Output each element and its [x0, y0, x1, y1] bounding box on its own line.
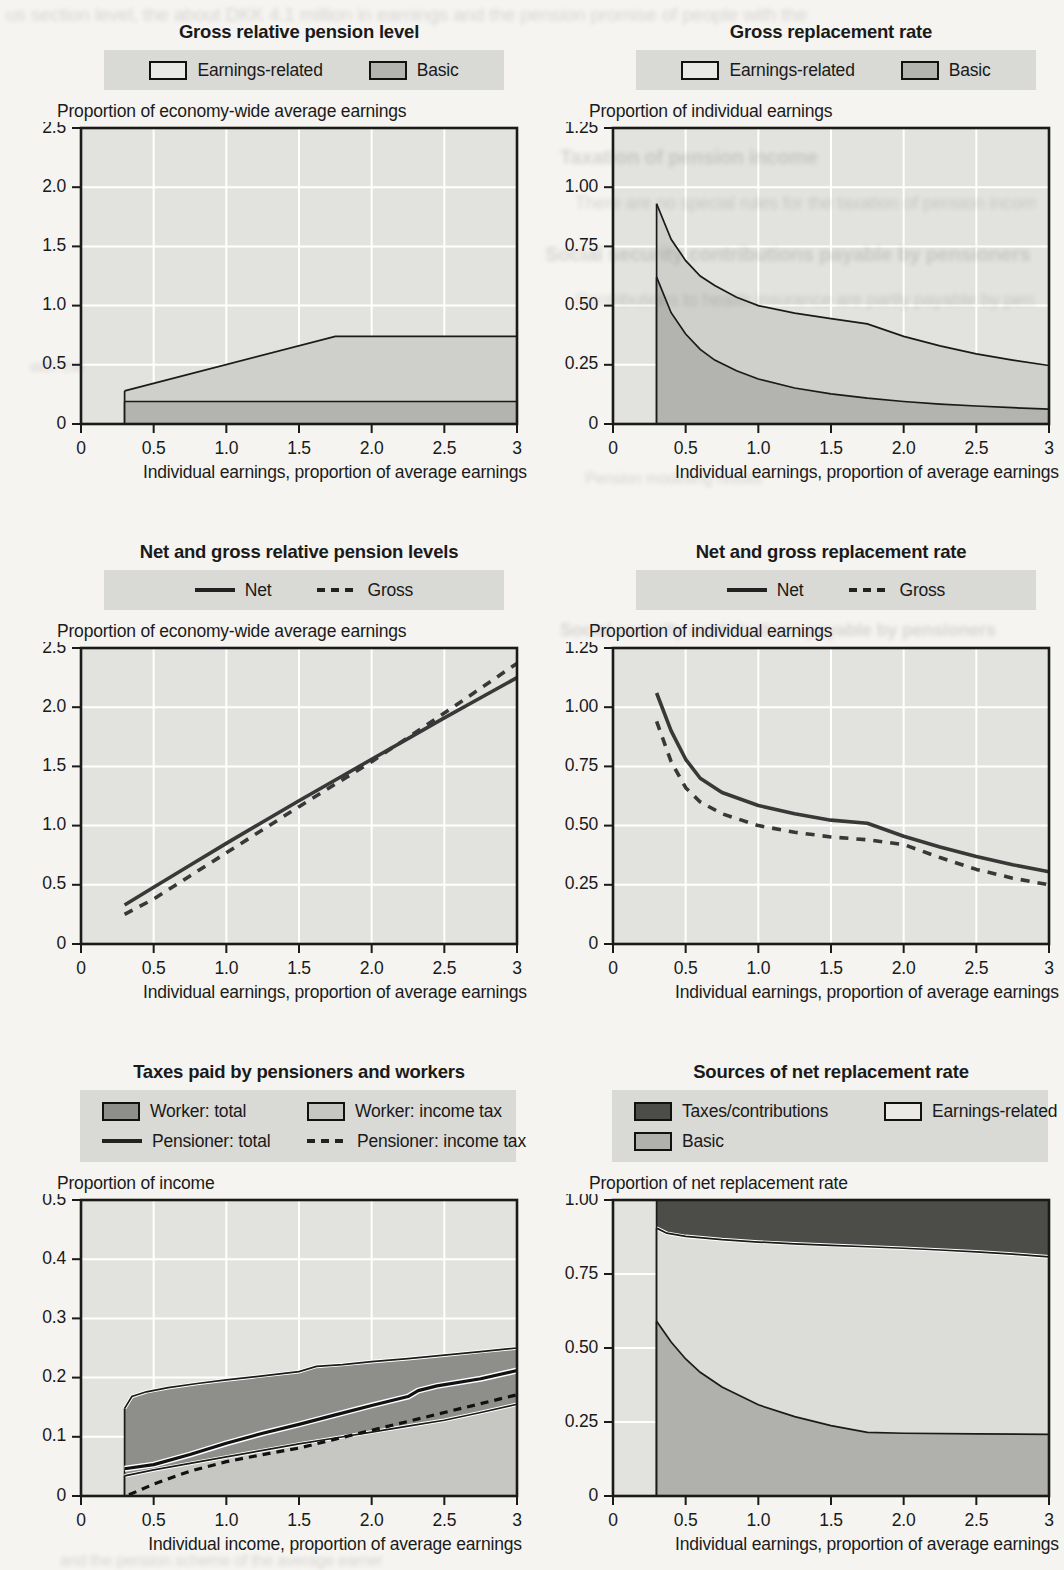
x-tick-label: 0.5	[674, 1510, 698, 1530]
chart-net-gross-replacement-rate: Net and gross replacement rate NetGross …	[532, 526, 1064, 1046]
y-tick-label: 0	[588, 413, 598, 433]
y-tick-label: 0.75	[565, 755, 598, 775]
x-tick-label: 0	[76, 1510, 86, 1530]
legend-label: Worker: income tax	[355, 1101, 502, 1122]
legend-item-worker-income-tax: Worker: income tax	[307, 1101, 526, 1122]
y-tick-label: 0	[56, 1485, 66, 1505]
x-tick-label: 0.5	[674, 438, 698, 458]
legend-label: Worker: total	[150, 1101, 246, 1122]
y-tick-label: 0.5	[42, 1194, 66, 1209]
x-tick-label: 1.0	[746, 1510, 770, 1530]
y-axis-label: Proportion of economy-wide average earni…	[57, 620, 532, 642]
x-tick-label: 1.5	[287, 1510, 311, 1530]
legend-line-swatch-icon	[727, 588, 767, 592]
legend-box-swatch-icon	[634, 1132, 672, 1151]
plot-svg: 00.51.01.52.02.500.51.01.52.02.53Individ…	[0, 122, 532, 482]
y-tick-label: 1.5	[42, 235, 66, 255]
legend-label: Pensioner: total	[152, 1131, 270, 1152]
x-tick-label: 0.5	[674, 958, 698, 978]
y-tick-label: 0.25	[565, 353, 598, 373]
x-tick-label: 2.5	[432, 438, 456, 458]
x-tick-label: 2.0	[360, 1510, 384, 1530]
y-tick-label: 0.4	[42, 1248, 66, 1268]
chart-legend: Earnings-relatedBasic	[104, 50, 504, 90]
legend-label: Net	[245, 580, 272, 601]
x-tick-label: 1.0	[214, 438, 238, 458]
y-tick-label: 0.75	[565, 235, 598, 255]
chart-sources-of-net-replacement-rate: Sources of net replacement rate Taxes/co…	[532, 1046, 1064, 1554]
chart-title: Sources of net replacement rate	[598, 1060, 1064, 1084]
legend-box-swatch-icon	[102, 1102, 140, 1121]
y-tick-label: 0.1	[42, 1425, 66, 1445]
legend-box-swatch-icon	[901, 61, 939, 80]
x-tick-label: 0.5	[142, 1510, 166, 1530]
x-tick-label: 0	[608, 958, 618, 978]
charts-grid: Gross relative pension level Earnings-re…	[0, 0, 1064, 1554]
x-tick-label: 0	[76, 958, 86, 978]
legend-item-net: Net	[195, 580, 272, 601]
y-tick-label: 1.00	[565, 1194, 599, 1209]
y-tick-label: 2.0	[42, 696, 66, 716]
legend-item-pensioner-total: Pensioner: total	[102, 1131, 307, 1152]
legend-box-swatch-icon	[149, 61, 187, 80]
legend-label: Earnings-related	[197, 60, 322, 81]
x-tick-label: 2.5	[964, 1510, 988, 1530]
x-axis-label: Individual income, proportion of average…	[148, 1534, 522, 1554]
y-tick-label: 0.75	[565, 1263, 598, 1283]
y-tick-label: 0.2	[42, 1366, 66, 1386]
x-tick-label: 1.0	[746, 958, 770, 978]
y-axis-label: Proportion of income	[57, 1172, 532, 1194]
plot-svg: 00.250.500.751.0000.51.01.52.02.53Indivi…	[532, 1194, 1064, 1554]
y-tick-label: 1.25	[565, 642, 598, 657]
x-tick-label: 2.5	[964, 958, 988, 978]
legend-box-swatch-icon	[634, 1102, 672, 1121]
x-tick-label: 1.5	[819, 1510, 843, 1530]
x-axis-label: Individual earnings, proportion of avera…	[143, 982, 527, 1002]
legend-item-basic: Basic	[369, 60, 459, 81]
x-tick-label: 2.5	[432, 958, 456, 978]
x-tick-label: 0.5	[142, 958, 166, 978]
chart-title: Gross replacement rate	[598, 20, 1064, 44]
legend-item-basic: Basic	[901, 60, 991, 81]
x-tick-label: 0	[608, 438, 618, 458]
legend-item-taxes-contributions: Taxes/contributions	[634, 1101, 884, 1122]
legend-label: Pensioner: income tax	[357, 1131, 526, 1152]
plot-svg: 00.10.20.30.40.500.51.01.52.02.53Individ…	[0, 1194, 532, 1554]
y-tick-label: 0.50	[565, 1337, 599, 1357]
y-axis-label: Proportion of net replacement rate	[589, 1172, 1064, 1194]
legend-item-earnings-related: Earnings-related	[149, 60, 322, 81]
y-axis-label: Proportion of economy-wide average earni…	[57, 100, 532, 122]
plot-area: 00.250.500.751.0000.51.01.52.02.53Indivi…	[532, 1194, 1064, 1554]
x-tick-label: 1.5	[287, 438, 311, 458]
y-tick-label: 0.25	[565, 873, 598, 893]
legend-item-earnings-related: Earnings-related	[681, 60, 854, 81]
y-axis-label: Proportion of individual earnings	[589, 620, 1064, 642]
x-tick-label: 2.0	[892, 958, 916, 978]
y-tick-label: 0.3	[42, 1307, 66, 1327]
chart-gross-replacement-rate: Gross replacement rate Earnings-relatedB…	[532, 6, 1064, 526]
chart-title: Net and gross replacement rate	[598, 540, 1064, 564]
x-axis-label: Individual earnings, proportion of avera…	[675, 1534, 1059, 1554]
legend-item-worker-total: Worker: total	[102, 1101, 307, 1122]
legend-label: Gross	[367, 580, 413, 601]
x-tick-label: 0	[76, 438, 86, 458]
y-tick-label: 0	[56, 413, 66, 433]
plot-svg: 00.250.500.751.001.2500.51.01.52.02.53In…	[532, 642, 1064, 1002]
y-tick-label: 1.25	[565, 122, 598, 137]
legend-label: Basic	[949, 60, 991, 81]
y-tick-label: 1.00	[565, 696, 599, 716]
legend-item-gross: Gross	[849, 580, 945, 601]
x-tick-label: 1.0	[214, 958, 238, 978]
x-tick-label: 3	[1044, 438, 1054, 458]
y-tick-label: 2.5	[42, 122, 66, 137]
plot-area: 00.51.01.52.02.500.51.01.52.02.53Individ…	[0, 122, 532, 482]
legend-box-swatch-icon	[884, 1102, 922, 1121]
x-tick-label: 2.0	[360, 958, 384, 978]
x-tick-label: 1.5	[287, 958, 311, 978]
y-tick-label: 1.0	[42, 814, 66, 834]
x-tick-label: 2.0	[892, 1510, 916, 1530]
x-axis-label: Individual earnings, proportion of avera…	[675, 982, 1059, 1002]
y-tick-label: 0.5	[42, 873, 66, 893]
legend-label: Earnings-related	[932, 1101, 1057, 1122]
x-tick-label: 2.5	[432, 1510, 456, 1530]
